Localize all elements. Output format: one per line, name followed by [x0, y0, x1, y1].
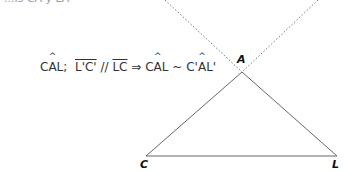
- vertex-label-l: L: [332, 158, 339, 171]
- vertex-label-a: A: [237, 53, 246, 66]
- dotted-line-left: [165, 0, 242, 72]
- side-ac: [146, 72, 242, 156]
- dotted-line-right: [242, 0, 318, 72]
- triangle-diagram: [0, 0, 350, 171]
- vertex-label-c: C: [140, 158, 148, 171]
- side-al: [242, 72, 337, 156]
